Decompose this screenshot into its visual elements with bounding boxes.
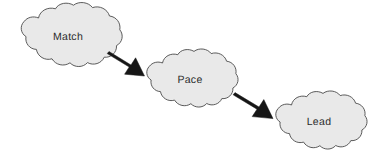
node-match[interactable] — [21, 3, 122, 67]
edge-match-to-pace[interactable] — [107, 52, 144, 77]
cloud-shape-match — [21, 3, 122, 67]
cloud-shape-lead — [276, 91, 367, 149]
edge-pace-to-lead[interactable] — [233, 93, 273, 119]
block-arrow-icon — [107, 52, 144, 77]
cloud-flow-diagram: Match Pace Lead — [0, 0, 377, 155]
node-pace[interactable] — [147, 49, 238, 107]
diagram-canvas — [0, 0, 377, 155]
block-arrow-icon — [233, 93, 273, 119]
node-lead[interactable] — [276, 91, 367, 149]
cloud-shape-pace — [147, 49, 238, 107]
